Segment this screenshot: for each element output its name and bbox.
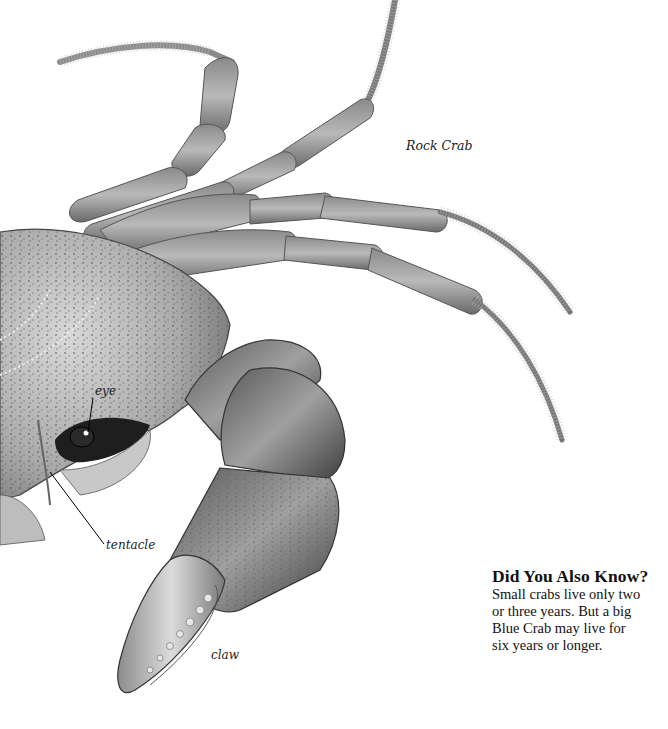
fact-line: or three years. But a big	[492, 603, 668, 620]
fact-box: Did You Also Know? Small crabs live only…	[492, 566, 668, 654]
species-label: Rock Crab	[406, 138, 472, 153]
fact-line: Blue Crab may live for	[492, 620, 668, 637]
claw-pincer	[118, 555, 225, 692]
fact-line: six years or longer.	[492, 637, 668, 654]
fact-line: Small crabs live only two	[492, 586, 668, 603]
claw-label: claw	[211, 648, 239, 662]
eye-label: eye	[95, 384, 116, 398]
fact-title: Did You Also Know?	[492, 566, 668, 586]
tentacle-label: tentacle	[106, 538, 155, 552]
